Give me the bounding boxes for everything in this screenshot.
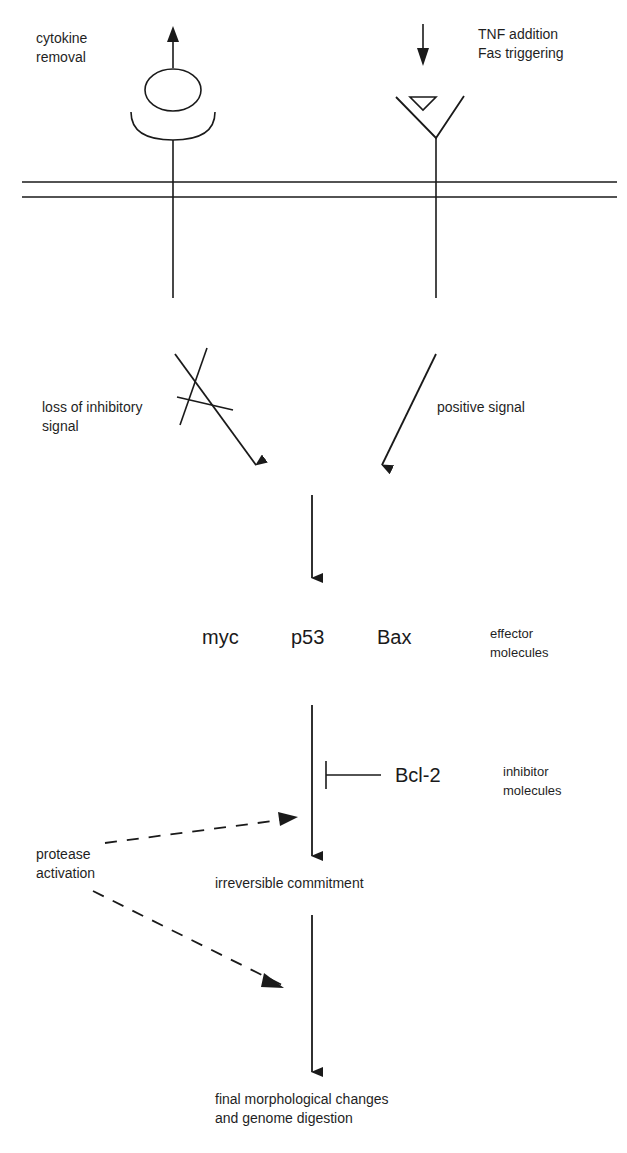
inhibitory-signal-arrow [175, 348, 256, 465]
effector-p53: p53 [291, 625, 324, 649]
label-line: Fas triggering [478, 44, 564, 63]
pathway-diagram [0, 0, 627, 1153]
cell-membrane [22, 182, 617, 197]
arrow-up-icon [167, 26, 179, 42]
label-line: loss of inhibitory [42, 398, 142, 417]
cytokine-receptor-icon [131, 26, 215, 298]
tnf-fas-label: TNF addition Fas triggering [478, 25, 564, 63]
bcl2-label: Bcl-2 [395, 763, 441, 787]
label-line: molecules [490, 643, 549, 662]
cytokine-removal-label: cytokine removal [36, 29, 87, 67]
label-line: signal [42, 417, 142, 436]
inhibitor-molecules-caption: inhibitor molecules [503, 762, 562, 800]
cytokine-ligand-icon [145, 69, 201, 111]
receptor-cup-icon [131, 112, 215, 140]
label-line: final morphological changes [215, 1090, 389, 1109]
positive-signal-label: positive signal [437, 398, 525, 417]
arrow-down-icon [417, 48, 429, 66]
label-line: positive signal [437, 398, 525, 417]
effector-molecules-caption: effector molecules [490, 624, 549, 662]
label-line: and genome digestion [215, 1109, 389, 1128]
label-line: removal [36, 48, 87, 67]
label-line: effector [490, 624, 549, 643]
dashed-arrow-to-final [93, 891, 282, 985]
protease-dashed-arrows [93, 812, 298, 988]
label-line: TNF addition [478, 25, 564, 44]
bcl2-inhibition-icon [326, 761, 381, 789]
dashed-arrow-to-commitment [105, 818, 296, 843]
label-line: molecules [503, 781, 562, 800]
tnf-ligand-triangle-icon [410, 97, 436, 110]
cross-mark-icon [180, 348, 207, 425]
label-line: cytokine [36, 29, 87, 48]
label-line: inhibitor [503, 762, 562, 781]
irreversible-commitment-label: irreversible commitment [215, 874, 364, 893]
loss-of-inhibitory-signal-label: loss of inhibitory signal [42, 398, 142, 436]
label-line: activation [36, 864, 95, 883]
positive-signal-arrow [382, 354, 436, 465]
final-changes-label: final morphological changes and genome d… [215, 1090, 389, 1128]
protease-activation-label: protease activation [36, 845, 95, 883]
tnf-fas-receptor-icon [396, 24, 464, 298]
effector-myc: myc [202, 625, 239, 649]
label-line: protease [36, 845, 95, 864]
effector-bax: Bax [377, 625, 411, 649]
